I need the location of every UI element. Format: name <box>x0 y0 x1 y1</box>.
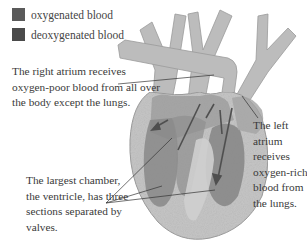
ventricle-label: The largest chamber, the ventricle, has … <box>26 173 136 235</box>
legend-item-deoxygenated: deoxygenated blood <box>12 26 124 43</box>
legend-item-oxygenated: oxygenated blood <box>12 6 124 23</box>
right-atrium-label: The right atrium receives oxygen-poor bl… <box>12 64 162 111</box>
oxygenated-swatch <box>12 8 25 21</box>
legend-label: oxygenated blood <box>31 9 113 21</box>
legend: oxygenated blood deoxygenated blood <box>12 6 124 46</box>
deoxygenated-swatch <box>12 28 25 41</box>
left-atrium-label: The left atrium receives oxygen-rich blo… <box>253 118 307 211</box>
legend-label: deoxygenated blood <box>31 29 124 41</box>
